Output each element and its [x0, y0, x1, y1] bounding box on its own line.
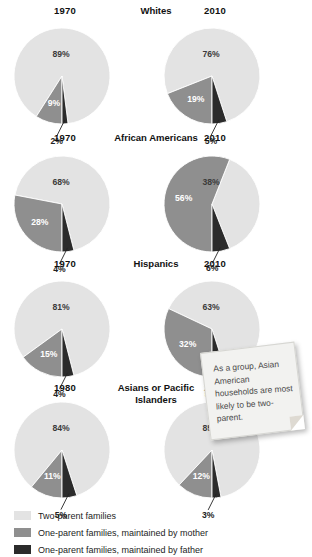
pie-slice-label: 81% — [52, 302, 70, 312]
legend-label-two-parent: Two-parent families — [38, 511, 116, 521]
pie-slice-label: 32% — [179, 339, 197, 349]
legend: Two-parent families One-parent families,… — [14, 508, 304, 557]
year-label-right: 2010 — [150, 5, 280, 16]
callout-text: As a group, Asian American households ar… — [213, 357, 297, 425]
pie-slice-label: 9% — [48, 98, 61, 108]
pie-slice-label: 12% — [193, 471, 211, 481]
legend-swatch-mother — [14, 528, 31, 537]
pie-chart: 84%11%5% — [0, 398, 124, 522]
pie-slice-label: 63% — [202, 302, 220, 312]
pie-chart: 89%9%2% — [0, 24, 124, 148]
pie-slice-label: 11% — [44, 471, 61, 481]
legend-swatch-father — [14, 545, 31, 554]
legend-item-mother: One-parent families, maintained by mothe… — [14, 525, 304, 540]
pie-slice-label: 56% — [175, 193, 193, 203]
pie-slice-label: 84% — [52, 423, 70, 433]
legend-label-mother: One-parent families, maintained by mothe… — [38, 528, 208, 538]
pie-slice-label: 76% — [202, 49, 220, 59]
callout-sticky-note: As a group, Asian American households ar… — [200, 342, 305, 441]
pie-slice-label: 89% — [52, 49, 70, 59]
pie-slice-label: 15% — [40, 349, 58, 359]
year-label-right: 2010 — [150, 258, 280, 269]
pie-chart: 76%19%5% — [150, 24, 274, 148]
legend-item-father: One-parent families, maintained by fathe… — [14, 542, 304, 557]
pie-slice-label: 38% — [202, 177, 220, 187]
pie-slice-label: 19% — [187, 94, 205, 104]
legend-item-two-parent: Two-parent families — [14, 508, 304, 523]
year-label-right: 2010 — [150, 132, 280, 143]
legend-swatch-two-parent — [14, 511, 31, 520]
pie-slice-label: 28% — [31, 217, 49, 227]
legend-label-father: One-parent families, maintained by fathe… — [38, 545, 203, 555]
pie-slice-label: 68% — [52, 177, 70, 187]
